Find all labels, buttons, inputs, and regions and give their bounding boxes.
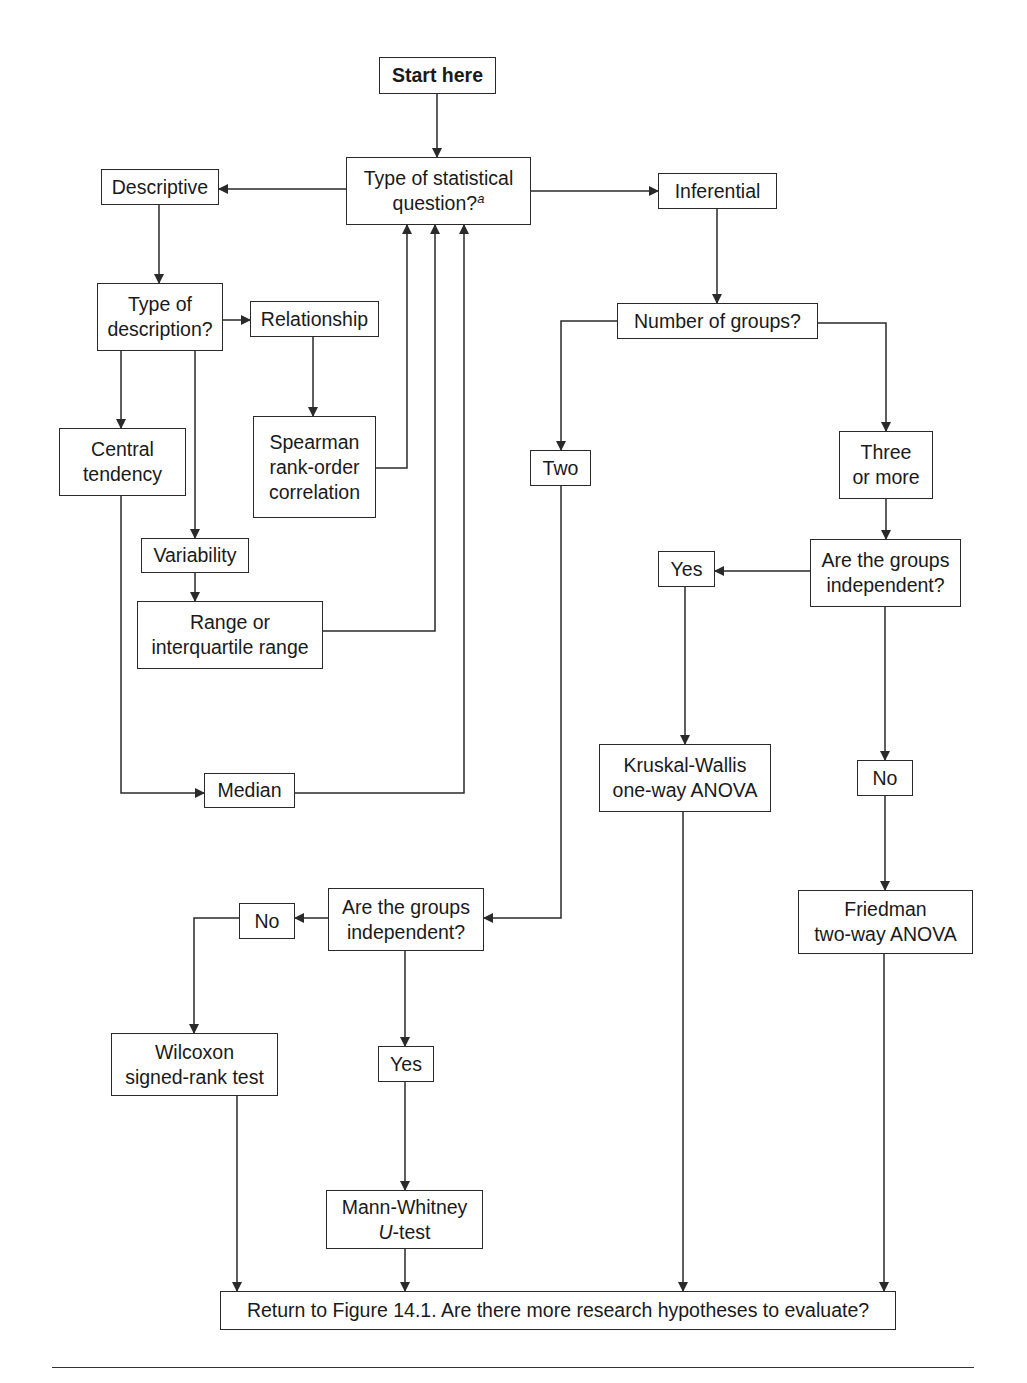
node-inferential: Inferential	[658, 173, 777, 209]
node-label-text: Kruskal-Wallis one-way ANOVA	[613, 754, 758, 801]
node-wilcoxon: Wilcoxon signed-rank test	[111, 1033, 278, 1096]
node-label-text: Are the groups independent?	[342, 896, 470, 943]
node-label-text: Central tendency	[83, 438, 162, 485]
node-label-text: Descriptive	[112, 176, 208, 198]
node-label: Yes	[390, 1052, 422, 1077]
node-label: Are the groups independent?	[342, 895, 470, 945]
node-descriptive: Descriptive	[101, 169, 219, 205]
node-return: Return to Figure 14.1. Are there more re…	[220, 1291, 896, 1330]
node-label-text: Return to Figure 14.1. Are there more re…	[247, 1299, 869, 1321]
node-label: Range or interquartile range	[151, 610, 308, 660]
arrow-num_groups-to-three	[818, 323, 886, 431]
node-label: Return to Figure 14.1. Are there more re…	[247, 1298, 869, 1323]
node-variability: Variability	[141, 538, 249, 573]
node-label-text: Two	[543, 457, 579, 479]
node-label-line2: -test	[393, 1221, 431, 1243]
arrow-num_groups-to-two	[561, 321, 617, 450]
bottom-divider	[52, 1367, 974, 1368]
node-friedman: Friedman two-way ANOVA	[798, 890, 973, 954]
node-indep-right: Are the groups independent?	[810, 539, 961, 607]
node-num-groups: Number of groups?	[617, 303, 818, 339]
node-label: Kruskal-Wallis one-way ANOVA	[613, 753, 758, 803]
node-label-text: Type of statistical question?	[364, 167, 514, 214]
node-kruskal: Kruskal-Wallis one-way ANOVA	[599, 744, 771, 812]
node-label-text: Wilcoxon signed-rank test	[125, 1041, 264, 1088]
node-three: Three or more	[839, 431, 933, 499]
node-label-text: Friedman two-way ANOVA	[814, 898, 957, 945]
node-label-text: Yes	[671, 558, 703, 580]
node-label-text: Range or interquartile range	[151, 611, 308, 658]
node-label: Three or more	[852, 440, 919, 490]
node-label: Wilcoxon signed-rank test	[125, 1040, 264, 1090]
node-label: No	[873, 766, 898, 791]
node-label: Start here	[392, 63, 483, 88]
node-label-text: Are the groups independent?	[822, 549, 950, 596]
node-start: Start here	[379, 57, 496, 94]
node-label-text: Variability	[153, 544, 236, 566]
node-label: Are the groups independent?	[822, 548, 950, 598]
footnote-marker: a	[477, 191, 484, 206]
node-no-right: No	[857, 760, 913, 796]
node-label-italic: U	[378, 1221, 392, 1243]
node-label: No	[255, 909, 280, 934]
node-label: Variability	[153, 543, 236, 568]
node-label: Friedman two-way ANOVA	[814, 897, 957, 947]
node-label: Yes	[671, 557, 703, 582]
node-label: Type of description?	[107, 292, 212, 342]
arrow-no_left-to-wilcoxon	[194, 918, 239, 1033]
arrow-two-to-indep_left	[484, 486, 561, 918]
node-label: Relationship	[261, 307, 368, 332]
node-question: Type of statistical question?a	[346, 157, 531, 225]
node-no-left: No	[239, 903, 295, 939]
node-label: Median	[218, 778, 282, 803]
node-label-text: Three or more	[852, 441, 919, 488]
node-range: Range or interquartile range	[137, 601, 323, 669]
node-median: Median	[204, 773, 295, 808]
node-label: Central tendency	[83, 437, 162, 487]
node-label-text: Number of groups?	[634, 310, 801, 332]
node-label-text: Start here	[392, 64, 483, 86]
node-mann: Mann-WhitneyU-test	[326, 1190, 483, 1249]
node-indep-left: Are the groups independent?	[328, 888, 484, 951]
node-label: Two	[543, 456, 579, 481]
node-yes-left: Yes	[378, 1046, 434, 1082]
node-label-text: Relationship	[261, 308, 368, 330]
node-label: Inferential	[675, 179, 761, 204]
node-label-line1: Mann-Whitney	[342, 1196, 468, 1218]
node-relationship: Relationship	[250, 301, 379, 337]
node-label-text: Yes	[390, 1053, 422, 1075]
node-label: Descriptive	[112, 175, 208, 200]
node-label: Mann-WhitneyU-test	[342, 1195, 468, 1245]
arrow-spearman-to-question	[376, 225, 407, 468]
node-label: Type of statistical question?a	[364, 166, 514, 216]
flowchart-canvas: Start hereType of statistical question?a…	[0, 0, 1027, 1383]
node-spearman: Spearman rank-order correlation	[253, 416, 376, 518]
node-label-text: Median	[218, 779, 282, 801]
node-yes-right: Yes	[658, 551, 715, 587]
node-type-desc: Type of description?	[97, 283, 223, 351]
node-label: Spearman rank-order correlation	[269, 430, 360, 505]
node-label-text: No	[255, 910, 280, 932]
node-label: Number of groups?	[634, 309, 801, 334]
node-label-text: Inferential	[675, 180, 761, 202]
node-label-text: Spearman rank-order correlation	[269, 431, 360, 503]
node-label-text: Type of description?	[107, 293, 212, 340]
node-label-text: No	[873, 767, 898, 789]
node-two: Two	[530, 450, 591, 486]
node-central: Central tendency	[59, 428, 186, 496]
